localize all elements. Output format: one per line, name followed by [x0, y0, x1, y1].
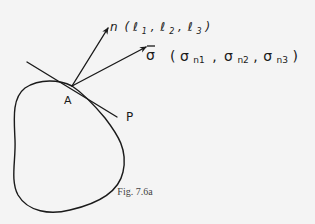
stress-vector-arrow — [72, 47, 146, 86]
figure-caption: Fig. 7.6a — [117, 186, 153, 197]
stress-vector-diagram: A P n ( ℓ 1 , ℓ 2 , ℓ 3 ) σ ( σ n1 , σ n… — [0, 0, 315, 224]
plane-label-p: P — [126, 110, 133, 124]
tangent-plane-line — [27, 62, 117, 117]
svg-text:( σ n1 ,: ( σ n1 , σ n2 , σ n3 ) — [170, 48, 298, 66]
normal-symbol: n — [110, 20, 118, 34]
stress-label: σ ( σ n1 , σ n2 , σ n3 ) — [146, 46, 298, 66]
point-label-a: A — [64, 94, 72, 107]
stress-symbol: σ — [146, 47, 155, 63]
svg-text:n ( ℓ 1: n ( ℓ 1 , ℓ 2 , ℓ 3 ) — [110, 20, 210, 37]
normal-label: n ( ℓ 1 , ℓ 2 , ℓ 3 ) — [110, 20, 210, 37]
